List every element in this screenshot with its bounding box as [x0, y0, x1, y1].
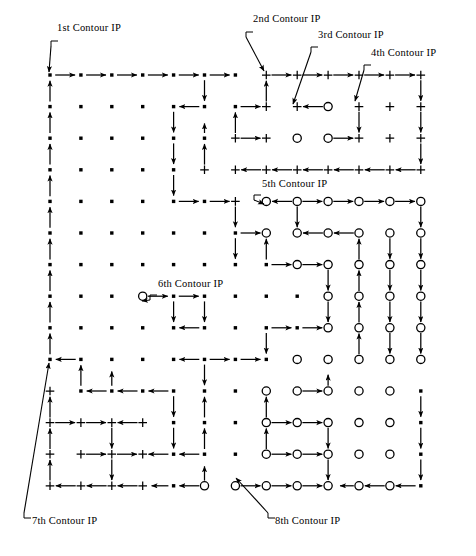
contour-ip-label-ip4: 4th Contour IP — [371, 47, 436, 58]
label-leader-line — [293, 52, 311, 104]
grid-point-dot — [48, 358, 51, 361]
grid-point-plus — [386, 102, 395, 111]
grid-point-plus — [108, 482, 117, 491]
contour-ip-label-ip8: 8th Contour IP — [275, 515, 340, 526]
label-hook — [311, 47, 318, 52]
grid-point-plus — [417, 102, 426, 111]
grid-point-dot — [79, 263, 82, 266]
grid-point-circle — [324, 134, 332, 142]
grid-point-dot — [48, 105, 51, 108]
grid-point-circle — [139, 292, 147, 300]
grid-point-circle — [386, 482, 394, 490]
label-leader-line — [49, 46, 51, 72]
grid-point-dot — [203, 200, 206, 203]
label-hook — [268, 513, 275, 518]
grid-point-circle — [386, 450, 394, 458]
grid-point-dot — [203, 389, 206, 392]
grid-point-dot — [419, 453, 422, 456]
grid-point-plus — [386, 71, 395, 80]
contour-ip-label-ip7: 7th Contour IP — [32, 515, 97, 526]
grid-point-dot — [110, 326, 113, 329]
grid-point-plus — [293, 102, 302, 111]
grid-point-dot — [48, 200, 51, 203]
grid-point-circle — [262, 450, 270, 458]
grid-point-dot — [265, 263, 268, 266]
grid-point-plus — [386, 134, 395, 143]
grid-point-dot — [419, 484, 422, 487]
grid-point-circle — [262, 482, 270, 490]
grid-point-circle — [293, 261, 301, 269]
grid-point-plus — [262, 102, 271, 111]
label-hook — [51, 41, 58, 46]
grid-point-circle — [324, 387, 332, 395]
grid-point-dot — [110, 168, 113, 171]
grid-point-dot — [203, 421, 206, 424]
grid-point-circle — [386, 229, 394, 237]
label-leader-line — [246, 37, 264, 71]
grid-point-dot — [172, 326, 175, 329]
grid-point-circle — [324, 292, 332, 300]
grid-point-circle — [293, 419, 301, 427]
grid-point-circle — [324, 355, 332, 363]
grid-point-plus — [262, 71, 271, 80]
grid-point-dot — [203, 326, 206, 329]
grid-point-plus — [231, 134, 240, 143]
grid-point-plus — [262, 134, 271, 143]
grid-point-circle — [262, 229, 270, 237]
grid-point-circle — [417, 261, 425, 269]
grid-point-plus — [417, 134, 426, 143]
grid-point-dot — [79, 105, 82, 108]
grid-point-dot — [79, 326, 82, 329]
grid-point-circle — [355, 387, 363, 395]
grid-point-plus — [200, 166, 209, 175]
contour-ip-label-ip1: 1st Contour IP — [57, 22, 121, 33]
grid-point-circle — [262, 419, 270, 427]
grid-point-circle — [386, 197, 394, 205]
contour-tracing-figure — [0, 0, 476, 556]
grid-point-circle — [355, 450, 363, 458]
grid-point-circle — [355, 355, 363, 363]
grid-point-dot — [79, 358, 82, 361]
grid-point-dot — [110, 137, 113, 140]
contour-ip-label-ip2: 2nd Contour IP — [253, 13, 321, 24]
grid-point-circle — [355, 419, 363, 427]
grid-point-circle — [355, 482, 363, 490]
label-hook — [254, 195, 261, 200]
grid-point-dot — [265, 358, 268, 361]
grid-point-dot — [234, 105, 237, 108]
grid-point-dot — [110, 105, 113, 108]
grid-point-dot — [234, 453, 237, 456]
grid-point-plus — [386, 166, 395, 175]
grid-point-dot — [296, 295, 299, 298]
grid-point-dot — [172, 105, 175, 108]
grid-point-circle — [417, 324, 425, 332]
grid-point-dot — [110, 263, 113, 266]
grid-point-dot — [172, 231, 175, 234]
grid-point-dot — [234, 73, 237, 76]
grid-point-dot — [203, 358, 206, 361]
contour-ip-label-ip3: 3rd Contour IP — [318, 29, 384, 40]
grid-point-dot — [203, 295, 206, 298]
grid-point-dot — [172, 168, 175, 171]
grid-point-plus — [293, 71, 302, 80]
grid-point-plus — [231, 166, 240, 175]
grid-point-dot — [265, 326, 268, 329]
label-hook — [24, 513, 31, 518]
grid-point-circle — [355, 197, 363, 205]
grid-point-plus — [138, 482, 147, 491]
grid-point-circle — [417, 292, 425, 300]
label-hook — [364, 65, 371, 70]
grid-point-plus — [138, 418, 147, 427]
grid-point-circle — [386, 324, 394, 332]
grid-point-dot — [172, 295, 175, 298]
grid-point-circle — [355, 292, 363, 300]
grid-point-dot — [172, 73, 175, 76]
grid-point-dot — [203, 453, 206, 456]
grid-markers — [46, 71, 425, 490]
grid-point-dot — [172, 389, 175, 392]
grid-point-dot — [203, 263, 206, 266]
grid-point-dot — [141, 200, 144, 203]
grid-point-circle — [324, 450, 332, 458]
grid-point-dot — [203, 105, 206, 108]
grid-point-circle — [417, 197, 425, 205]
